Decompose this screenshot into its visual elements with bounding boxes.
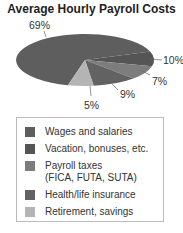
legend-label: Retirement, savings (45, 206, 133, 218)
label-health: 9% (120, 88, 135, 100)
legend-label: Wages and salaries (45, 126, 132, 138)
legend-item-retirement: Retirement, savings (25, 206, 133, 218)
label-vacation: 10% (163, 54, 183, 66)
swatch-retirement (25, 207, 35, 217)
swatch-wages (25, 127, 35, 137)
swatch-payroll-taxes (25, 161, 35, 171)
legend-label: Health/life insurance (45, 189, 136, 201)
swatch-health (25, 190, 35, 200)
label-retirement: 5% (84, 99, 99, 111)
legend: Wages and salaries Vacation, bonuses, et… (16, 117, 164, 222)
label-wages: 69% (29, 19, 50, 31)
legend-item-payroll-taxes: Payroll taxes (FICA, FUTA, SUTA) (25, 160, 137, 184)
legend-item-wages: Wages and salaries (25, 126, 132, 138)
legend-label: Vacation, bonuses, etc. (45, 143, 148, 155)
legend-label: Payroll taxes (FICA, FUTA, SUTA) (45, 160, 137, 184)
legend-item-vacation: Vacation, bonuses, etc. (25, 143, 148, 155)
swatch-vacation (25, 144, 35, 154)
label-payroll-taxes: 7% (152, 75, 167, 87)
legend-item-health: Health/life insurance (25, 189, 136, 201)
